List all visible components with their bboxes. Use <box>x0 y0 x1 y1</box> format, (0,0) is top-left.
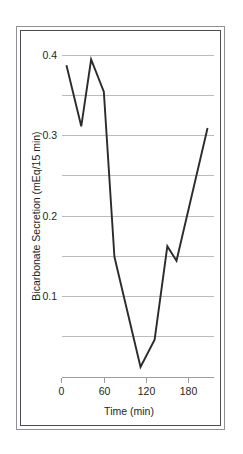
line-chart: 0.4 0.3 0.2 0.1 0 60 120 180 Time (min) … <box>0 0 243 454</box>
x-tick-label-120: 120 <box>138 385 156 397</box>
y-axis-title: Bicarbonate Secretion (mEq/15 min) <box>30 131 42 300</box>
y-tick-label-0.2: 0.2 <box>42 210 57 222</box>
x-tick-label-60: 60 <box>99 385 111 397</box>
y-tick-label-0.1: 0.1 <box>42 290 57 302</box>
y-tick-labels: 0.4 0.3 0.2 0.1 <box>42 49 57 302</box>
data-series-bicarbonate-secretion <box>66 60 207 368</box>
figure-container: 0.4 0.3 0.2 0.1 0 60 120 180 Time (min) … <box>0 0 243 454</box>
x-tick-label-180: 180 <box>180 385 198 397</box>
x-axis <box>62 378 214 383</box>
y-tick-label-0.4: 0.4 <box>42 49 57 61</box>
x-axis-title: Time (min) <box>104 405 154 417</box>
y-tick-label-0.3: 0.3 <box>42 129 57 141</box>
x-tick-label-0: 0 <box>59 385 65 397</box>
x-tick-labels: 0 60 120 180 <box>59 385 198 397</box>
